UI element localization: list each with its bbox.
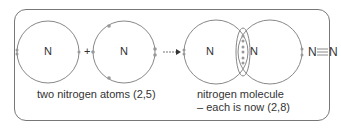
molecule-atom-2-symbol: N [250, 45, 258, 57]
arrow-head-icon [176, 49, 181, 55]
atom-2-symbol: N [120, 45, 128, 57]
molecule-atom-1-symbol: N [206, 45, 214, 57]
caption-atoms: two nitrogen atoms (2,5) [37, 88, 156, 100]
plus-sign: + [84, 45, 90, 57]
triple-bond-icon [317, 49, 328, 55]
formula-right: N [329, 45, 338, 59]
atom-1-symbol: N [44, 45, 52, 57]
caption-molecule-line2: – each is now (2,8) [197, 101, 290, 113]
formula-left: N [308, 45, 317, 59]
shared-electrons [242, 35, 245, 65]
caption-molecule-line1: nitrogen molecule [197, 88, 284, 100]
